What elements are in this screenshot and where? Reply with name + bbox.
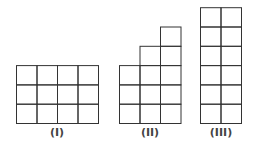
grid-cell: [120, 85, 141, 104]
grid-cell: [140, 66, 161, 85]
grid-cell: [201, 104, 222, 123]
grid-cell: [161, 66, 182, 85]
grid-cell: [37, 66, 58, 85]
grid-cell: [221, 8, 242, 27]
grid-cell: [17, 85, 38, 104]
grid-cell: [78, 104, 99, 123]
grid-cell: [37, 85, 58, 104]
grid-cell: [140, 85, 161, 104]
grid-cell: [221, 104, 242, 123]
grid-cell: [17, 104, 38, 123]
figure-label: (II): [130, 126, 170, 139]
figure-label: (I): [37, 126, 77, 139]
grid-cell: [140, 46, 161, 65]
grid-cell: [161, 27, 182, 46]
grid-cell: [120, 104, 141, 123]
grid-cell: [201, 8, 222, 27]
grid-cell: [161, 46, 182, 65]
grid-cell: [17, 66, 38, 85]
figure-2: [120, 27, 182, 124]
grid-cell: [120, 66, 141, 85]
grid-cell: [78, 66, 99, 85]
grid-cell: [201, 46, 222, 65]
grid-cell: [140, 104, 161, 123]
figure-1: [17, 66, 99, 124]
grid-cell: [221, 85, 242, 104]
grid-cell: [221, 66, 242, 85]
grid-cell: [78, 85, 99, 104]
grid-cell: [58, 66, 79, 85]
grid-cell: [58, 104, 79, 123]
grid-cell: [161, 85, 182, 104]
grid-cell: [201, 66, 222, 85]
grid-cell: [201, 27, 222, 46]
grid-cell: [37, 104, 58, 123]
grid-cell: [58, 85, 79, 104]
figure-3: [201, 8, 242, 124]
grid-cell: [221, 27, 242, 46]
grid-cell: [201, 85, 222, 104]
grid-cell: [221, 46, 242, 65]
figure-label: (III): [201, 126, 241, 139]
grid-cell: [161, 104, 182, 123]
